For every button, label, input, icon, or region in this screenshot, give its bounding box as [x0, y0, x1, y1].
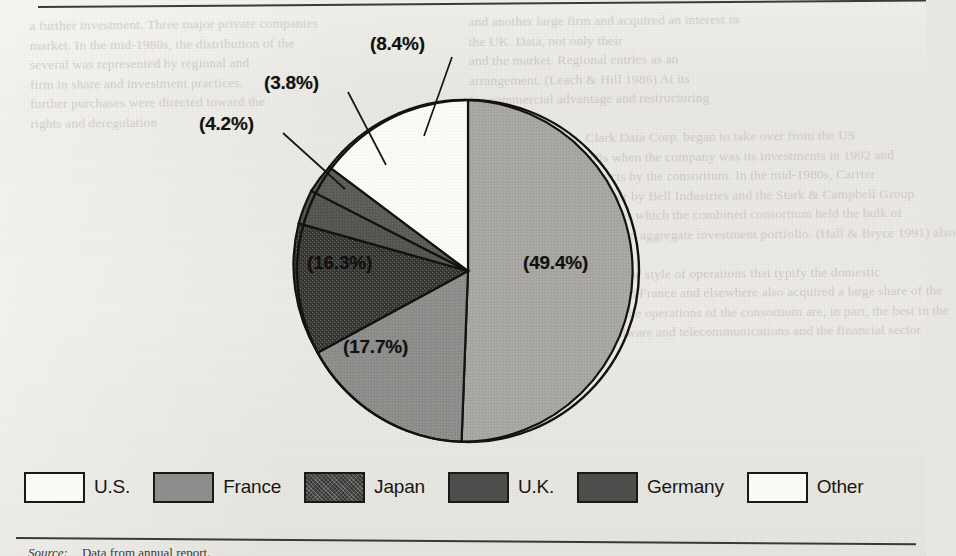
legend-item-other[interactable]: Other — [747, 472, 887, 503]
legend-label-us: U.S. — [94, 476, 130, 498]
legend-item-uk[interactable]: U.K. — [448, 472, 577, 503]
legend-label-germany: Germany — [647, 476, 724, 498]
legend-item-germany[interactable]: Germany — [577, 472, 747, 503]
legend-item-us[interactable]: U.S. — [24, 472, 153, 503]
chart-legend: U.S. France Japan U.K. Germany Other — [24, 461, 902, 513]
slice-label-uk: (4.2%) — [199, 113, 254, 135]
slice-label-france: (17.7%) — [343, 336, 408, 358]
slice-label-other: (8.4%) — [370, 33, 425, 55]
legend-label-other: Other — [817, 476, 864, 498]
legend-swatch-uk — [448, 472, 509, 503]
legend-swatch-france — [153, 472, 214, 503]
slice-label-japan: (16.3%) — [307, 252, 372, 274]
legend-swatch-japan — [304, 472, 365, 503]
legend-item-japan[interactable]: Japan — [304, 472, 448, 503]
legend-label-japan: Japan — [374, 476, 425, 498]
legend-label-uk: U.K. — [518, 476, 554, 498]
slice-label-germany: (3.8%) — [264, 72, 319, 94]
legend-item-france[interactable]: France — [153, 472, 304, 503]
legend-swatch-other — [747, 472, 808, 503]
legend-label-france: France — [223, 476, 281, 498]
legend-swatch-germany — [577, 472, 638, 503]
legend-swatch-us — [24, 472, 85, 503]
slice-label-us: (49.4%) — [523, 252, 588, 274]
